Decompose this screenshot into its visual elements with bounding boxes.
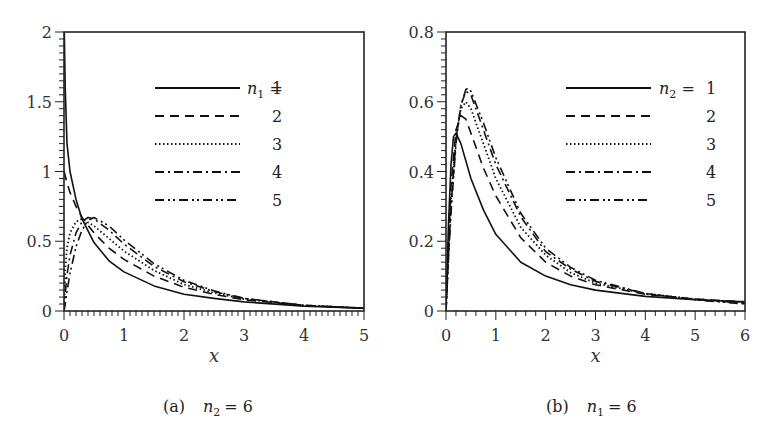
legend-label-2: 2 [272,107,282,126]
panel-caption: (a)n2= 6 [163,397,253,419]
legend-title: n1 = [247,79,283,101]
panel-caption: (b)n1= 6 [546,397,637,419]
y-tick-label: 0.5 [27,232,52,251]
legend-label-4: 4 [706,163,716,182]
y-tick-label: 1 [42,163,52,182]
x-tick-label: 5 [690,326,700,345]
x-tick-label: 2 [179,326,189,345]
chart-panel-a: 01234500.511.52x1n1 =2345(a)n2= 6 [27,23,370,419]
y-tick-label: 0.4 [409,163,434,182]
y-tick-label: 0.2 [409,232,434,251]
x-tick-label: 6 [740,326,750,345]
x-tick-label: 1 [119,326,129,345]
legend-label-5: 5 [706,191,716,210]
legend-label-3: 3 [706,135,716,154]
x-tick-label: 5 [359,326,369,345]
series-line-4 [446,91,745,311]
series-line-3 [64,219,364,311]
y-tick-label: 0 [424,302,434,321]
x-tick-label: 3 [239,326,249,345]
series-line-2 [64,172,364,309]
x-tick-label: 2 [541,326,551,345]
series-line-5 [64,218,364,312]
legend-label-5: 5 [272,191,282,210]
x-axis-label: x [590,345,600,366]
y-tick-label: 0 [42,302,52,321]
series-line-1 [64,32,364,308]
x-tick-label: 0 [441,326,451,345]
x-tick-label: 3 [590,326,600,345]
legend-label-3: 3 [272,135,282,154]
y-tick-label: 2 [42,23,52,42]
y-tick-label: 0.8 [409,23,434,42]
legend-label-1: 1 [706,79,716,98]
legend-label-4: 4 [272,163,282,182]
chart-panel-b: 012345600.20.40.60.8x1n2 =2345(b)n1= 6 [409,23,751,419]
plot-frame [446,32,745,311]
y-tick-label: 1.5 [27,93,52,112]
x-tick-label: 0 [59,326,69,345]
x-tick-label: 4 [299,326,309,345]
legend-label-2: 2 [706,107,716,126]
y-tick-label: 0.6 [409,93,434,112]
series-line-4 [64,218,364,312]
x-tick-label: 4 [640,326,650,345]
legend-title: n2 = [659,79,695,101]
legend: 1n2 =2345 [566,79,716,210]
x-axis-label: x [209,345,219,366]
figure: 01234500.511.52x1n1 =2345(a)n2= 6 012345… [0,0,766,432]
x-tick-label: 1 [491,326,501,345]
legend: 1n1 =2345 [155,79,283,210]
